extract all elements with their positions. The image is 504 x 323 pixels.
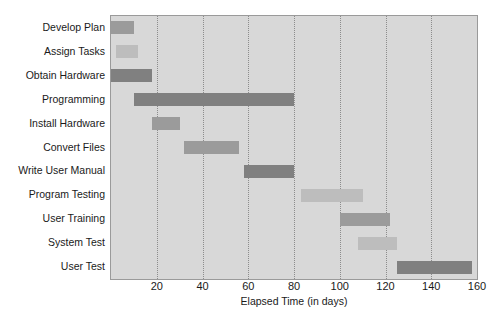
- x-tick-label: 120: [376, 280, 394, 292]
- task-label: Install Hardware: [0, 117, 105, 129]
- x-tick-label: 20: [151, 280, 163, 292]
- gantt-bar: [116, 45, 139, 58]
- x-tick-label: 40: [196, 280, 208, 292]
- task-label: Develop Plan: [0, 21, 105, 33]
- task-label: Program Testing: [0, 188, 105, 200]
- gridline: [340, 16, 341, 279]
- gantt-bar: [244, 165, 294, 178]
- gantt-bar: [301, 189, 363, 202]
- gridline: [157, 16, 158, 279]
- gantt-bar: [152, 117, 179, 130]
- gridline: [248, 16, 249, 279]
- x-tick-label: 160: [468, 280, 486, 292]
- x-tick-label: 80: [288, 280, 300, 292]
- x-tick-label: 140: [422, 280, 440, 292]
- task-label-column: Develop PlanAssign TasksObtain HardwareP…: [0, 15, 105, 280]
- gantt-bar: [340, 213, 390, 226]
- task-label: Programming: [0, 93, 105, 105]
- gantt-bar: [111, 21, 134, 34]
- gridline: [431, 16, 432, 279]
- gantt-bar: [134, 93, 294, 106]
- gridline: [294, 16, 295, 279]
- task-label: Write User Manual: [0, 164, 105, 176]
- task-label: Obtain Hardware: [0, 69, 105, 81]
- gantt-bar: [358, 237, 397, 250]
- x-axis-title: Elapsed Time (in days): [110, 295, 478, 307]
- task-label: User Test: [0, 260, 105, 272]
- x-axis-tick-labels: 20406080100120140160: [110, 280, 478, 296]
- gantt-bar: [184, 141, 239, 154]
- task-label: System Test: [0, 236, 105, 248]
- x-tick-label: 100: [331, 280, 349, 292]
- task-label: Assign Tasks: [0, 45, 105, 57]
- task-label: User Training: [0, 212, 105, 224]
- x-tick-label: 60: [242, 280, 254, 292]
- gantt-plot-area: [110, 15, 478, 280]
- gantt-bar: [397, 261, 472, 274]
- gantt-chart-figure: Develop PlanAssign TasksObtain HardwareP…: [0, 0, 504, 323]
- gantt-bar: [111, 69, 152, 82]
- task-label: Convert Files: [0, 141, 105, 153]
